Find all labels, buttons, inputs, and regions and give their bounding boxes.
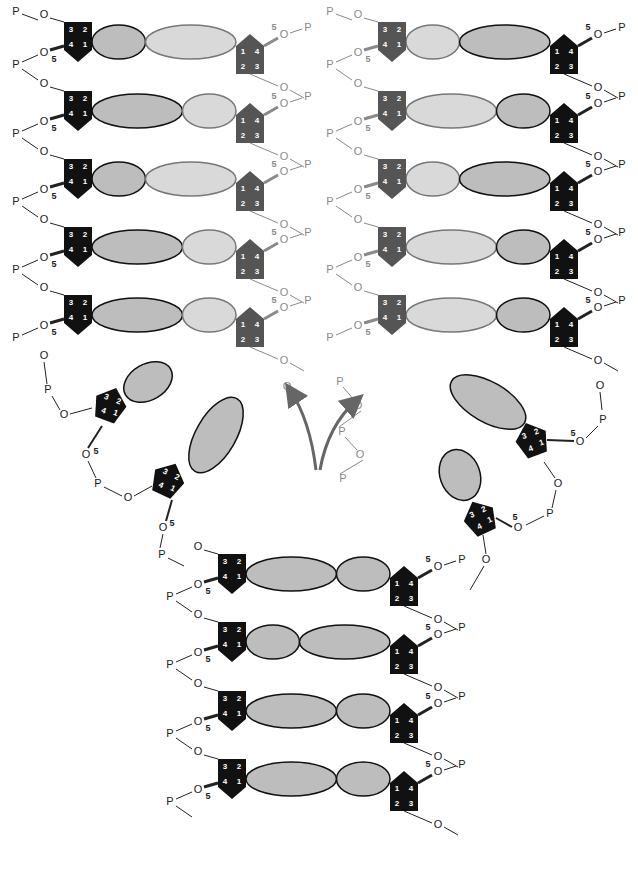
nitrogenous-base	[337, 557, 390, 591]
nitrogenous-base	[183, 94, 236, 128]
phosphate-atom: P	[304, 294, 311, 306]
arrows-layer	[290, 390, 357, 470]
bond-line	[418, 775, 432, 783]
five-prime-label: 5	[570, 428, 575, 438]
bond-line	[50, 115, 64, 119]
sugar-carbon-1: 1	[395, 784, 400, 793]
oxygen-3prime: O	[354, 8, 363, 20]
base-pair-row: 3241OO5P14235OPO	[12, 77, 311, 167]
oxygen-5prime: O	[194, 715, 203, 727]
bond-line	[604, 302, 616, 306]
oxygen-3prime: O	[354, 145, 363, 157]
sugar-carbon-3: 3	[383, 162, 388, 171]
bond-line	[88, 426, 102, 448]
nitrogenous-base	[183, 298, 236, 332]
oxygen-3prime: O	[280, 286, 289, 298]
oxygen-5prime: O	[434, 560, 443, 572]
sugar-carbon-2: 2	[397, 230, 402, 239]
sugar-carbon-4: 4	[383, 109, 388, 118]
oxygen-atom: O	[82, 448, 91, 460]
bond-line	[104, 487, 122, 496]
phosphate-atom: P	[94, 477, 101, 489]
sugar-carbon-4: 4	[255, 252, 260, 261]
bond-line	[22, 55, 38, 62]
nitrogenous-base	[246, 694, 337, 728]
oxygen-5prime: O	[594, 233, 603, 245]
nitrogenous-base	[246, 625, 299, 659]
sugar-carbon-2: 2	[83, 298, 88, 307]
five-prime-label: 5	[425, 759, 430, 769]
sugar-carbon-4: 4	[383, 245, 388, 254]
bond-line	[564, 143, 592, 155]
phosphate-atom: P	[12, 5, 19, 17]
oxygen-5prime: O	[434, 697, 443, 709]
sugar-carbon-3: 3	[255, 335, 260, 344]
sugar-carbon-2: 2	[395, 594, 400, 603]
bond-line	[552, 490, 556, 508]
bond-line	[345, 437, 357, 450]
bond-line	[50, 87, 64, 91]
five-prime-label: 5	[365, 54, 370, 64]
oxygen-5prime: O	[40, 46, 49, 58]
bond-line	[364, 251, 378, 255]
bond-line	[496, 518, 512, 527]
five-prime-label: 5	[365, 327, 370, 337]
sugar-carbon-4: 4	[255, 184, 260, 193]
bond-line	[160, 534, 163, 548]
five-prime-label: 5	[585, 22, 590, 32]
nitrogenous-base	[497, 94, 550, 128]
nitrogenous-base	[116, 353, 179, 410]
bond-line	[22, 206, 38, 217]
bond-line	[50, 319, 64, 323]
sugar-carbon-3: 3	[569, 335, 574, 344]
bond-line	[364, 319, 378, 323]
oxygen-5prime: O	[354, 46, 363, 58]
dna-replication-diagram: 3241OO5P14235OPO3241OO5P14235OPO3241OO5P…	[0, 0, 638, 876]
oxygen-5prime: O	[354, 251, 363, 263]
five-prime-label: 5	[205, 791, 210, 801]
oxygen-3prime: O	[434, 818, 443, 830]
phosphate-atom: P	[326, 5, 333, 17]
bond-line	[22, 260, 38, 267]
sugar-carbon-3: 3	[409, 662, 414, 671]
base-pair-row: 3241OO5P14235OPO	[166, 745, 465, 835]
sugar-carbon-2: 2	[397, 94, 402, 103]
oxygen-5prime: O	[354, 319, 363, 331]
five-prime-label: 5	[51, 191, 56, 201]
bond-line	[336, 192, 352, 199]
bond-line	[50, 183, 64, 187]
bond-line	[418, 570, 432, 578]
five-prime-label: 5	[51, 123, 56, 133]
sugar-carbon-2: 2	[237, 625, 242, 634]
sugar-carbon-1: 1	[237, 709, 242, 718]
bond-line	[336, 260, 352, 267]
oxygen-5prime: O	[40, 183, 49, 195]
sugar-carbon-2: 2	[397, 298, 402, 307]
oxygen-5prime: O	[594, 97, 603, 109]
nitrogenous-base	[337, 762, 390, 796]
bond-line	[526, 516, 544, 525]
sugar-carbon-1: 1	[555, 184, 560, 193]
bond-line	[364, 223, 378, 227]
bond-line	[22, 69, 38, 80]
oxygen-atom: O	[514, 521, 523, 533]
sugar-carbon-4: 4	[409, 579, 414, 588]
bond-line	[250, 143, 278, 155]
sugar-carbon-4: 4	[383, 40, 388, 49]
sugar-group: 3241	[147, 457, 190, 501]
phosphate-atom: P	[12, 331, 19, 343]
sugar-carbon-4: 4	[223, 640, 228, 649]
bond-line	[22, 192, 38, 199]
phosphate-atom: P	[458, 621, 465, 633]
phosphate-atom: P	[618, 90, 625, 102]
sugar-carbon-3: 3	[223, 694, 228, 703]
bond-line	[444, 827, 458, 835]
sugar-carbon-2: 2	[237, 762, 242, 771]
nitrogenous-base	[442, 364, 535, 441]
five-prime-label: 5	[271, 295, 276, 305]
bond-line	[364, 18, 378, 22]
phosphate-atom: P	[326, 127, 333, 139]
bond-line	[88, 461, 96, 478]
bond-line	[176, 601, 192, 612]
oxygen-3prime: O	[40, 281, 49, 293]
